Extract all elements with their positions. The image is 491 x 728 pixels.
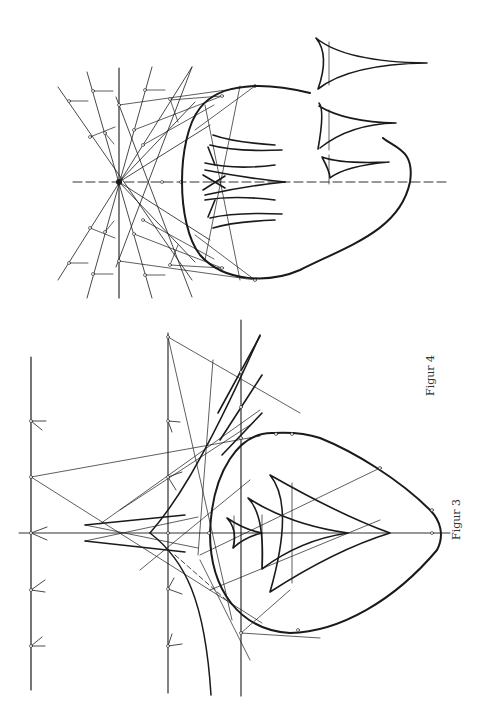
figure-3-points xyxy=(30,336,434,648)
figure-3-caption: Figur 3 xyxy=(450,499,463,540)
figure-3-inner-cusps xyxy=(227,475,390,592)
figure-4-caption: Figur 4 xyxy=(424,355,437,396)
figure-3-tick-marks xyxy=(31,421,182,646)
figure-3-envelope xyxy=(85,335,260,695)
scanned-page: Figur 4 Figur 3 xyxy=(0,0,491,728)
figure-3-diagram xyxy=(0,0,491,728)
figure-3-dashed-segment xyxy=(175,555,232,605)
figure-3-construction-lines xyxy=(31,337,380,660)
